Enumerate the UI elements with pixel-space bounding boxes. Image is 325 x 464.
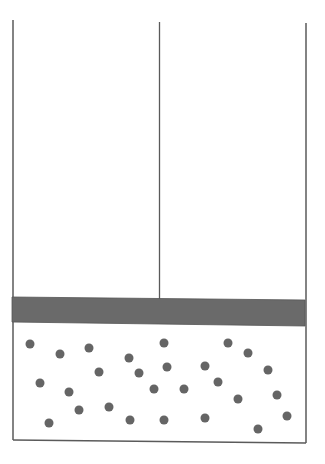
gas-particle bbox=[36, 379, 45, 388]
gas-particle bbox=[126, 416, 135, 425]
gas-particle bbox=[65, 388, 74, 397]
gas-particle bbox=[273, 391, 282, 400]
gas-particle bbox=[160, 339, 169, 348]
gas-particle bbox=[254, 425, 263, 434]
gas-particle bbox=[201, 362, 210, 371]
gas-particle bbox=[234, 395, 243, 404]
gas-particle bbox=[224, 339, 233, 348]
gas-particle bbox=[105, 403, 114, 412]
gas-particle bbox=[264, 366, 273, 375]
gas-particle bbox=[244, 349, 253, 358]
gas-particle bbox=[214, 378, 223, 387]
gas-particle bbox=[45, 419, 54, 428]
gas-particle bbox=[85, 344, 94, 353]
gas-particle bbox=[26, 340, 35, 349]
gas-particle bbox=[150, 385, 159, 394]
gas-particle bbox=[283, 412, 292, 421]
gas-particle bbox=[56, 350, 65, 359]
piston-cylinder-diagram bbox=[0, 0, 325, 464]
piston bbox=[12, 297, 305, 326]
gas-particle bbox=[95, 368, 104, 377]
gas-particle bbox=[180, 385, 189, 394]
gas-particle bbox=[125, 354, 134, 363]
gas-particle bbox=[163, 363, 172, 372]
gas-particle bbox=[135, 369, 144, 378]
gas-particle bbox=[160, 416, 169, 425]
gas-particle bbox=[75, 406, 84, 415]
gas-particle bbox=[201, 414, 210, 423]
